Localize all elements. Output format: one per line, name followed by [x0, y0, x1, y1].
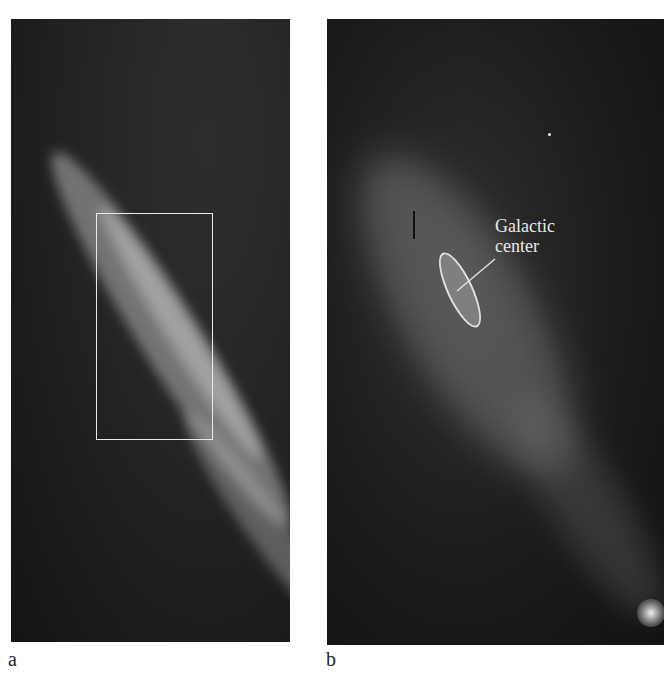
annotation-line2: center — [495, 236, 555, 256]
galactic-center-annotation: Galactic center — [495, 216, 555, 256]
star-point — [548, 133, 551, 136]
panel-b-image: Galactic center — [327, 19, 664, 645]
panel-b-label: b — [326, 648, 336, 671]
panel-a-label: a — [8, 648, 17, 671]
bright-source — [637, 599, 664, 627]
panel-a-image — [11, 19, 290, 642]
annotation-leader-line — [327, 19, 664, 645]
annotation-line1: Galactic — [495, 216, 555, 236]
selection-box — [96, 213, 213, 440]
